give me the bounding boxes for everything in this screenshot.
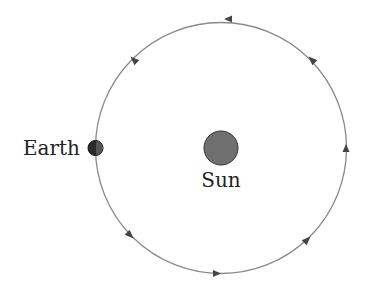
arrow-icon [128,54,139,65]
orbit-diagram: Sun Earth [0,0,371,294]
earth-shading [96,141,103,155]
earth-label: Earth [23,136,80,160]
arrow-icon [306,54,317,65]
arrow-icon [224,16,232,23]
arrow-icon [213,270,221,277]
sun-icon [204,131,238,165]
arrow-icon [343,144,350,152]
sun-label: Sun [201,168,241,192]
